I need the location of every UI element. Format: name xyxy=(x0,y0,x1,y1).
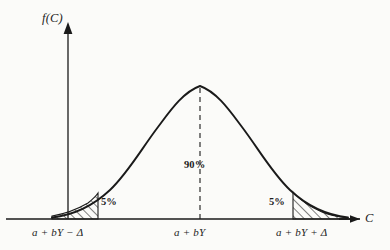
normal-distribution-figure: f(C) C 5% 90% 5% a + bY − Δ a + bY a + b… xyxy=(0,0,390,250)
y-axis-label: f(C) xyxy=(42,11,63,26)
y-axis-arrowhead xyxy=(64,22,73,34)
central-area-percent-label: 90% xyxy=(184,159,205,170)
left-tail-percent-label: 5% xyxy=(101,196,117,207)
x-tick-label-lower-bound: a + bY − Δ xyxy=(32,226,83,238)
right-tail-percent-label: 5% xyxy=(269,196,285,207)
figure-canvas xyxy=(0,0,390,250)
x-axis-label: C xyxy=(365,211,374,226)
y-axis xyxy=(64,22,73,219)
x-tick-label-mean: a + bY xyxy=(174,226,205,238)
x-tick-label-upper-bound: a + bY + Δ xyxy=(276,226,327,238)
x-axis-arrowhead xyxy=(350,215,360,223)
